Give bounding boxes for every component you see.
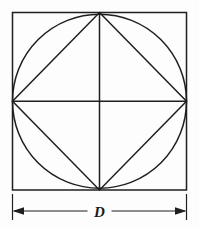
geometry-diagram: D xyxy=(0,0,199,229)
dimension-label-D: D xyxy=(93,204,105,220)
figure-container: D xyxy=(0,0,199,229)
